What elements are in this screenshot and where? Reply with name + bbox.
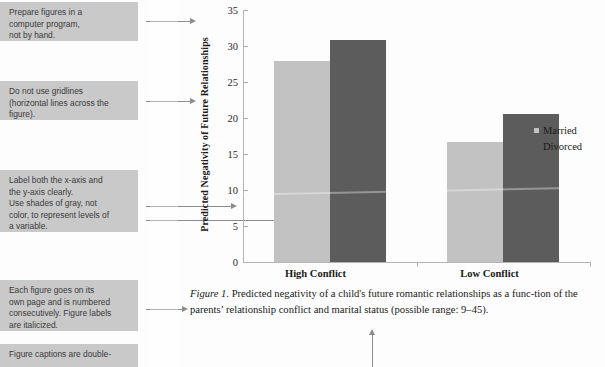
x-axis-label-low-conflict: Low Conflict bbox=[432, 268, 547, 279]
annotation-label-axes: Label both the x-axis and the y-axis cle… bbox=[0, 170, 138, 232]
x-axis-label-high-conflict: High Conflict bbox=[258, 268, 373, 279]
y-tick-30: 30 bbox=[216, 41, 238, 52]
legend-swatch-married-icon bbox=[534, 128, 539, 133]
y-axis-title-text: Predicted Negativity of Future Relations… bbox=[199, 37, 210, 232]
arrow-head-right-icon bbox=[182, 306, 188, 312]
annotation-arrow-figure-label bbox=[146, 309, 184, 310]
y-axis-title: Predicted Negativity of Future Relations… bbox=[196, 5, 212, 263]
arrow-head-up-icon bbox=[369, 329, 375, 335]
annotation-arrow-prepare-figures bbox=[146, 21, 192, 22]
legend-label-divorced: Divorced bbox=[543, 141, 582, 152]
y-tick-0: 0 bbox=[216, 257, 238, 268]
x-axis-end-tick bbox=[590, 263, 591, 267]
annotation-arrow-double-spaced bbox=[372, 333, 373, 367]
legend-item-divorced[interactable]: Divorced bbox=[534, 138, 582, 154]
annotation-arrow-no-gridlines bbox=[146, 101, 192, 102]
legend-item-married[interactable]: Married bbox=[534, 122, 582, 138]
y-tick-20: 20 bbox=[216, 113, 238, 124]
y-tick-5: 5 bbox=[216, 221, 238, 232]
figure-caption-label: Figure 1. bbox=[190, 288, 229, 299]
annotation-no-gridlines: Do not use gridlines (horizontal lines a… bbox=[0, 81, 138, 120]
bar-high-conflict-married[interactable] bbox=[274, 61, 330, 262]
annotation-figure-numbering: Each figure goes on its own page and is … bbox=[0, 280, 138, 331]
bar-low-conflict-married[interactable] bbox=[447, 142, 503, 262]
bar-high-conflict-divorced[interactable] bbox=[330, 40, 386, 262]
x-axis-mid-tick bbox=[417, 263, 418, 267]
y-tick-25: 25 bbox=[216, 77, 238, 88]
y-tick-35: 35 bbox=[216, 5, 238, 16]
scan-artifact bbox=[150, 0, 178, 367]
annotation-double-spaced-captions: Figure captions are double- bbox=[0, 344, 138, 367]
y-axis-tick-labels: 35 30 25 20 15 10 5 0 bbox=[212, 0, 238, 285]
y-tick-10: 10 bbox=[216, 185, 238, 196]
figure-caption: Figure 1. Predicted negativity of a chil… bbox=[190, 286, 594, 318]
y-tick-15: 15 bbox=[216, 149, 238, 160]
legend-swatch-divorced-icon bbox=[534, 144, 539, 149]
chart-legend: Married Divorced bbox=[534, 122, 582, 154]
legend-label-married: Married bbox=[543, 125, 577, 136]
figure-guidelines-page: Prepare figures in a computer program, n… bbox=[0, 0, 605, 367]
figure-caption-line1: Predicted negativity of a child's future… bbox=[229, 288, 534, 299]
annotation-prepare-figures: Prepare figures in a computer program, n… bbox=[0, 2, 138, 41]
